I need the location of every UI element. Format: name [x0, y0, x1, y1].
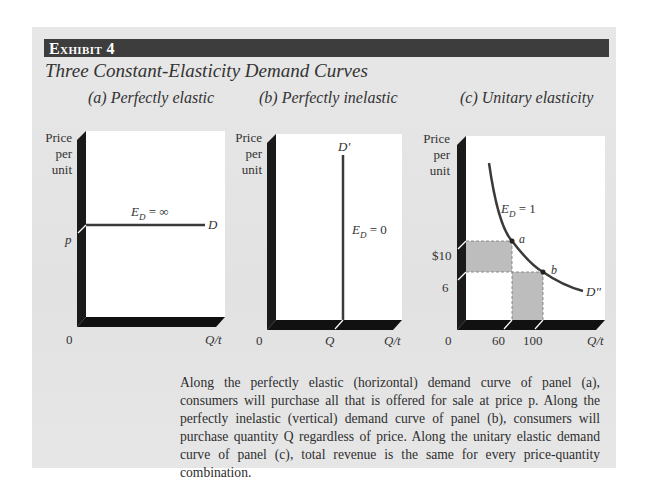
panel-b-quantity-tick: Q	[325, 333, 334, 348]
panel-c-curve-label: D"	[586, 284, 601, 299]
shaded-area-b	[512, 272, 543, 320]
panel-c-price-tick-10: $10	[432, 248, 452, 263]
panel-a-chart	[77, 131, 225, 327]
panel-c-x-label: Q/t	[587, 333, 604, 348]
panel-b-origin: 0	[256, 333, 263, 348]
panel-a-elasticity: ED = ∞	[131, 204, 169, 225]
panel-a-curve-label: D	[208, 217, 217, 232]
panel-c-origin: 0	[445, 333, 452, 348]
panel-c-quantity-tick-100: 100	[523, 333, 543, 348]
shaded-area-a	[466, 241, 512, 272]
panel-a-y-label-1: Price	[40, 130, 72, 145]
panel-a-y-label-2: per	[40, 146, 72, 161]
panel-c-elasticity: ED = 1	[501, 201, 536, 222]
panel-b-x-label: Q/t	[384, 333, 401, 348]
panel-b-elasticity: ED = 0	[352, 222, 387, 243]
panel-c-y-label-3: unit	[410, 163, 450, 178]
panel-a-x-label: Q/t	[205, 332, 222, 347]
panel-c-y-label-2: per	[410, 147, 450, 162]
panel-a-y-label-3: unit	[40, 162, 72, 177]
exhibit-caption: Along the perfectly elastic (horizontal)…	[180, 374, 600, 481]
panel-b-y-label-2: per	[228, 146, 262, 161]
panel-b-curve-label: D'	[338, 139, 350, 154]
panel-b-y-label-3: unit	[228, 162, 262, 177]
panel-c-point-a: a	[519, 232, 525, 247]
panel-c-chart	[457, 136, 605, 330]
panel-b-y-label-1: Price	[228, 130, 262, 145]
panel-a-price-tick: p	[65, 232, 72, 247]
panel-c-price-tick-6: 6	[442, 280, 449, 295]
panel-c-y-label-1: Price	[410, 131, 450, 146]
panel-c-quantity-tick-60: 60	[492, 333, 505, 348]
panel-c-point-b: b	[551, 263, 557, 278]
panel-a-origin: 0	[66, 332, 73, 347]
